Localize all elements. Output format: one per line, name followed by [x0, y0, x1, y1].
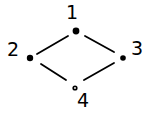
- node-label-1: 1: [66, 1, 78, 23]
- edge-3-4: [84, 63, 114, 80]
- node-label-2: 2: [7, 38, 19, 60]
- edges-layer: [37, 36, 114, 80]
- hasse-diagram: 1234: [0, 0, 156, 113]
- node-1: [73, 28, 80, 35]
- node-label-4: 4: [77, 89, 89, 111]
- node-3: [120, 55, 126, 61]
- nodes-layer: [27, 28, 126, 91]
- edge-1-3: [85, 36, 114, 52]
- edge-2-4: [41, 64, 66, 80]
- diagram-canvas: 1234: [0, 0, 156, 113]
- edge-1-2: [37, 36, 68, 54]
- node-label-3: 3: [131, 37, 143, 59]
- node-2: [27, 55, 33, 61]
- node-4-center: [74, 87, 76, 89]
